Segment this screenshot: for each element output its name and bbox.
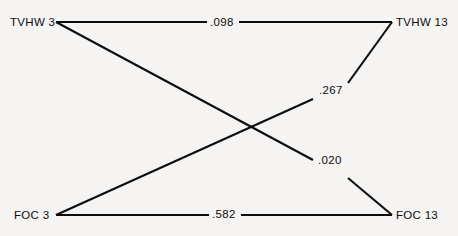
edge-label-foc3-foc13: .582 bbox=[211, 209, 237, 221]
diagram-edges bbox=[0, 0, 458, 236]
edge-line-foc3-tvhw13-lower bbox=[56, 99, 313, 215]
edge-label-foc3-tvhw13: .267 bbox=[318, 85, 344, 97]
node-label-foc13: FOC 13 bbox=[396, 210, 438, 222]
edge-label-tvhw3-foc13: .020 bbox=[317, 155, 343, 167]
node-label-foc3: FOC 3 bbox=[14, 210, 49, 222]
edge-line-foc3-tvhw13-upper bbox=[348, 22, 392, 83]
edge-line-tvhw3-foc13-upper bbox=[56, 22, 313, 160]
node-label-tvhw3: TVHW 3 bbox=[10, 17, 55, 29]
node-label-tvhw13: TVHW 13 bbox=[396, 17, 448, 29]
edge-line-tvhw3-foc13-lower bbox=[348, 178, 392, 215]
diagram-canvas: TVHW 3 TVHW 13 FOC 3 FOC 13 .098 .267 .0… bbox=[0, 0, 458, 236]
edge-label-tvhw3-tvhw13: .098 bbox=[209, 17, 235, 29]
